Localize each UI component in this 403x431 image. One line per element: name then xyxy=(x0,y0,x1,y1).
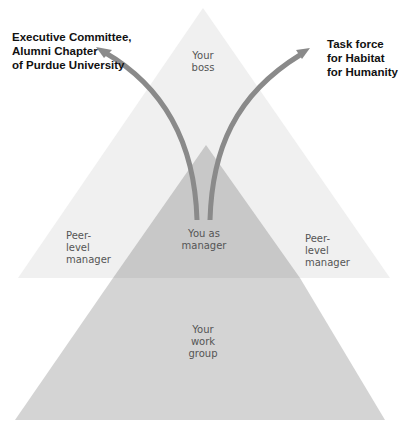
node-peer-right: Peer- level manager xyxy=(305,233,350,269)
node-your-boss: Your boss xyxy=(180,50,226,74)
node-peer-left: Peer- level manager xyxy=(66,230,111,266)
influence-pyramid-diagram: Executive Committee, Alumni Chapter of P… xyxy=(0,0,403,431)
external-node-alumni-chapter: Executive Committee, Alumni Chapter of P… xyxy=(12,30,132,72)
external-node-habitat: Task force for Habitat for Humanity xyxy=(327,37,398,79)
node-you-as-manager: You as manager xyxy=(176,228,232,252)
node-your-work-group: Your work group xyxy=(178,324,228,360)
